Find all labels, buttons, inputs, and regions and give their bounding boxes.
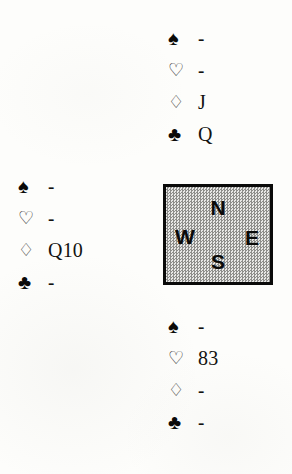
diamond-icon: ♢: [18, 241, 40, 259]
heart-icon: ♡: [168, 349, 190, 367]
south-hearts-value: 83: [190, 348, 218, 368]
south-spades-row: ♠ -: [168, 310, 218, 342]
spade-icon: ♠: [18, 176, 40, 196]
south-diamonds-value: -: [190, 381, 204, 400]
north-hand: ♠ - ♡ - ♢ J ♣ Q: [168, 22, 213, 150]
south-hand: ♠ - ♡ 83 ♢ - ♣ -: [168, 310, 218, 438]
north-diamonds-row: ♢ J: [168, 86, 213, 118]
west-diamonds-value: Q10: [40, 240, 83, 260]
compass-east-label: E: [241, 227, 263, 248]
spade-icon: ♠: [168, 28, 190, 48]
west-hearts-value: -: [40, 209, 54, 228]
compass-box: N W E S: [163, 184, 273, 285]
north-spades-row: ♠ -: [168, 22, 213, 54]
north-diamonds-value: J: [190, 92, 206, 112]
south-hearts-row: ♡ 83: [168, 342, 218, 374]
north-hearts-row: ♡ -: [168, 54, 213, 86]
west-diamonds-row: ♢ Q10: [18, 234, 83, 266]
diamond-icon: ♢: [168, 381, 190, 399]
compass-north-label: N: [166, 197, 270, 218]
west-hearts-row: ♡ -: [18, 202, 83, 234]
south-diamonds-row: ♢ -: [168, 374, 218, 406]
west-clubs-value: -: [40, 273, 54, 292]
north-spades-value: -: [190, 29, 204, 48]
west-spades-value: -: [40, 177, 54, 196]
west-clubs-row: ♣ -: [18, 266, 83, 298]
south-clubs-row: ♣ -: [168, 406, 218, 438]
club-icon: ♣: [168, 124, 190, 144]
heart-icon: ♡: [18, 209, 40, 227]
north-clubs-row: ♣ Q: [168, 118, 213, 150]
club-icon: ♣: [168, 412, 190, 432]
north-hearts-value: -: [190, 61, 204, 80]
north-clubs-value: Q: [190, 124, 213, 144]
diamond-icon: ♢: [168, 93, 190, 111]
compass-south-label: S: [166, 251, 270, 272]
west-hand: ♠ - ♡ - ♢ Q10 ♣ -: [18, 170, 83, 298]
compass-west-label: W: [173, 226, 197, 247]
south-spades-value: -: [190, 317, 204, 336]
heart-icon: ♡: [168, 61, 190, 79]
spade-icon: ♠: [168, 316, 190, 336]
west-spades-row: ♠ -: [18, 170, 83, 202]
south-clubs-value: -: [190, 413, 204, 432]
club-icon: ♣: [18, 272, 40, 292]
